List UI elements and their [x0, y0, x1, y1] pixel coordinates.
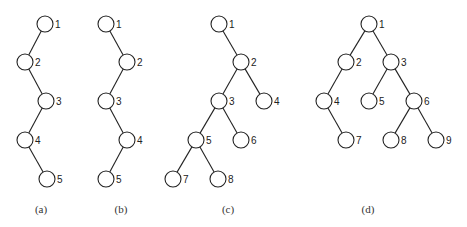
tree-node [316, 93, 332, 109]
node-label: 1 [229, 19, 235, 30]
tree-edge [200, 108, 215, 133]
node-label: 4 [137, 135, 143, 146]
tree-edge [177, 147, 192, 172]
tree-node [233, 54, 249, 70]
node-label: 4 [274, 96, 280, 107]
tree-edge [395, 69, 410, 94]
tree-node [165, 171, 181, 187]
node-label: 8 [401, 135, 407, 146]
node-label: 7 [356, 135, 362, 146]
node-label: 9 [446, 135, 452, 146]
tree-a: 12345(a) [17, 16, 63, 216]
tree-caption: (a) [35, 203, 48, 216]
tree-edge [350, 31, 365, 55]
tree-edge [373, 69, 387, 94]
tree-node [256, 93, 272, 109]
tree-node [383, 132, 399, 148]
tree-edge [29, 69, 42, 94]
tree-node [38, 93, 54, 109]
node-label: 1 [55, 19, 61, 30]
tree-node [211, 16, 227, 32]
tree-node [98, 16, 114, 32]
tree-edge [110, 147, 123, 172]
tree-edge [200, 147, 214, 172]
node-label: 5 [379, 96, 385, 107]
tree-edge [110, 108, 123, 133]
tree-edge [223, 69, 237, 94]
tree-edge [373, 31, 387, 55]
node-label: 2 [356, 57, 362, 68]
node-label: 2 [35, 57, 41, 68]
tree-edge [29, 108, 42, 133]
tree-caption: (d) [362, 203, 375, 216]
tree-edge [245, 69, 260, 94]
node-label: 1 [116, 19, 122, 30]
node-label: 5 [57, 174, 63, 185]
tree-node [361, 16, 377, 32]
tree-edge [395, 108, 410, 133]
tree-edge [110, 31, 123, 55]
tree-node [338, 132, 354, 148]
node-label: 7 [183, 174, 189, 185]
node-label: 5 [206, 135, 212, 146]
tree-edge [418, 108, 432, 133]
node-label: 3 [401, 57, 407, 68]
tree-edge [29, 31, 42, 55]
tree-edge [223, 31, 237, 55]
node-label: 6 [251, 135, 257, 146]
tree-edge [223, 108, 237, 133]
tree-node [98, 171, 114, 187]
tree-node [428, 132, 444, 148]
tree-node [361, 93, 377, 109]
node-label: 3 [56, 96, 62, 107]
tree-diagram-svg: 12345(a)12345(b)12345678(c)123456789(d) [0, 0, 467, 227]
node-label: 1 [379, 19, 385, 30]
node-label: 8 [228, 174, 234, 185]
tree-caption: (b) [115, 203, 128, 216]
tree-edge [110, 69, 123, 94]
tree-node [383, 54, 399, 70]
tree-node [211, 93, 227, 109]
tree-node [17, 132, 33, 148]
node-label: 5 [116, 174, 122, 185]
tree-node [119, 54, 135, 70]
tree-node [17, 54, 33, 70]
tree-edge [328, 108, 342, 133]
node-label: 3 [116, 96, 122, 107]
tree-node [37, 16, 53, 32]
tree-node [233, 132, 249, 148]
tree-node [39, 171, 55, 187]
tree-c: 12345678(c) [165, 16, 280, 216]
node-label: 4 [35, 135, 41, 146]
tree-node [406, 93, 422, 109]
tree-edge [328, 69, 342, 94]
node-label: 2 [251, 57, 257, 68]
tree-node [210, 171, 226, 187]
node-label: 6 [424, 96, 430, 107]
tree-node [188, 132, 204, 148]
tree-d: 123456789(d) [316, 16, 452, 216]
tree-caption: (c) [222, 203, 235, 216]
node-label: 2 [137, 57, 143, 68]
node-label: 4 [334, 96, 340, 107]
node-label: 3 [229, 96, 235, 107]
tree-b: 12345(b) [98, 16, 143, 216]
binary-trees-figure: 12345(a)12345(b)12345678(c)123456789(d) [0, 0, 467, 227]
tree-node [98, 93, 114, 109]
tree-edge [29, 147, 43, 172]
tree-node [338, 54, 354, 70]
tree-node [119, 132, 135, 148]
